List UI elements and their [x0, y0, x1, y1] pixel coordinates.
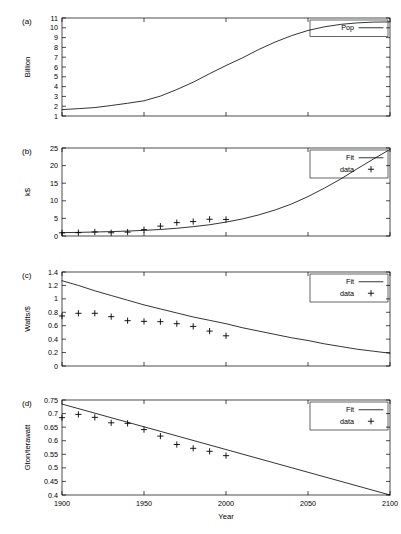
legend-label: data — [340, 417, 354, 426]
y-tick-label: 6 — [54, 63, 58, 72]
x-tick-label: 2000 — [218, 499, 234, 508]
y-tick-label: 0.65 — [44, 423, 58, 432]
panel-b: (b)0510152025k$Fitdata — [22, 144, 390, 241]
y-tick-label: 0.2 — [48, 348, 58, 357]
y-tick-label: 0.45 — [44, 477, 58, 486]
multi-panel-chart: (a)1234567891011BillionPop(b)0510152025k… — [0, 0, 401, 534]
y-tick-label: 0.6 — [48, 321, 58, 330]
legend: Fitdata — [310, 274, 388, 302]
y-tick-label: 7 — [54, 53, 58, 62]
y-tick-label: 20 — [50, 161, 58, 170]
y-tick-label: 15 — [50, 179, 58, 188]
series-line-Pop — [62, 22, 390, 110]
y-tick-label: 3 — [54, 92, 58, 101]
series-markers-data — [59, 411, 229, 458]
panel-tag: (a) — [22, 17, 32, 26]
y-tick-label: 4 — [54, 82, 58, 91]
y-tick-label: 1.4 — [48, 268, 58, 277]
x-tick-label: 2100 — [382, 499, 398, 508]
figure-container: (a)1234567891011BillionPop(b)0510152025k… — [0, 0, 401, 534]
y-tick-label: 8 — [54, 43, 58, 52]
y-tick-label: 0.75 — [44, 396, 58, 405]
y-tick-label: 0.4 — [48, 335, 58, 344]
y-tick-label: 0.55 — [44, 450, 58, 459]
y-axis-label: Gton/terawatt — [23, 424, 32, 470]
legend: Fitdata — [310, 402, 388, 430]
y-tick-label: 1.2 — [48, 281, 58, 290]
x-tick-label: 1900 — [54, 499, 70, 508]
y-tick-label: 25 — [50, 144, 58, 153]
y-tick-label: 1 — [54, 112, 58, 121]
y-tick-label: 9 — [54, 33, 58, 42]
y-axis-label: Watts/$ — [23, 305, 32, 331]
y-tick-label: 10 — [50, 23, 58, 32]
y-tick-label: 0.8 — [48, 308, 58, 317]
y-axis-label: k$ — [23, 187, 32, 196]
plot-frame — [62, 148, 390, 236]
panel-d: (d)0.40.450.50.550.60.650.70.75190019502… — [22, 396, 398, 521]
y-tick-label: 5 — [54, 214, 58, 223]
panel-tag: (c) — [22, 271, 32, 280]
panel-a: (a)1234567891011BillionPop — [22, 14, 390, 121]
x-tick-label: 1950 — [136, 499, 152, 508]
legend-label: Fit — [346, 405, 354, 414]
y-tick-label: 0 — [54, 232, 58, 241]
legend: Fitdata — [310, 150, 388, 178]
panel-c: (c)00.20.40.60.811.21.4Watts/$Fitdata — [22, 268, 390, 371]
legend-label: Fit — [346, 277, 354, 286]
series-markers-data — [59, 310, 229, 339]
y-tick-label: 5 — [54, 72, 58, 81]
y-tick-label: 0.5 — [48, 463, 58, 472]
x-axis-label: Year — [218, 512, 234, 521]
y-tick-label: 10 — [50, 196, 58, 205]
y-tick-label: 0.7 — [48, 409, 58, 418]
y-axis-label: Billion — [23, 57, 32, 77]
legend-label: data — [340, 165, 354, 174]
plot-frame — [62, 400, 390, 495]
legend-label: Fit — [346, 153, 354, 162]
y-tick-label: 0.6 — [48, 436, 58, 445]
panel-tag: (b) — [22, 147, 32, 156]
x-tick-label: 2050 — [300, 499, 316, 508]
y-tick-label: 11 — [51, 14, 58, 23]
y-tick-label: 1 — [54, 294, 58, 303]
y-tick-label: 2 — [54, 102, 58, 111]
y-tick-label: 0 — [54, 362, 58, 371]
legend-label: data — [340, 289, 354, 298]
legend-label: Pop — [341, 23, 354, 32]
plot-frame — [62, 18, 390, 116]
panel-tag: (d) — [22, 399, 32, 408]
